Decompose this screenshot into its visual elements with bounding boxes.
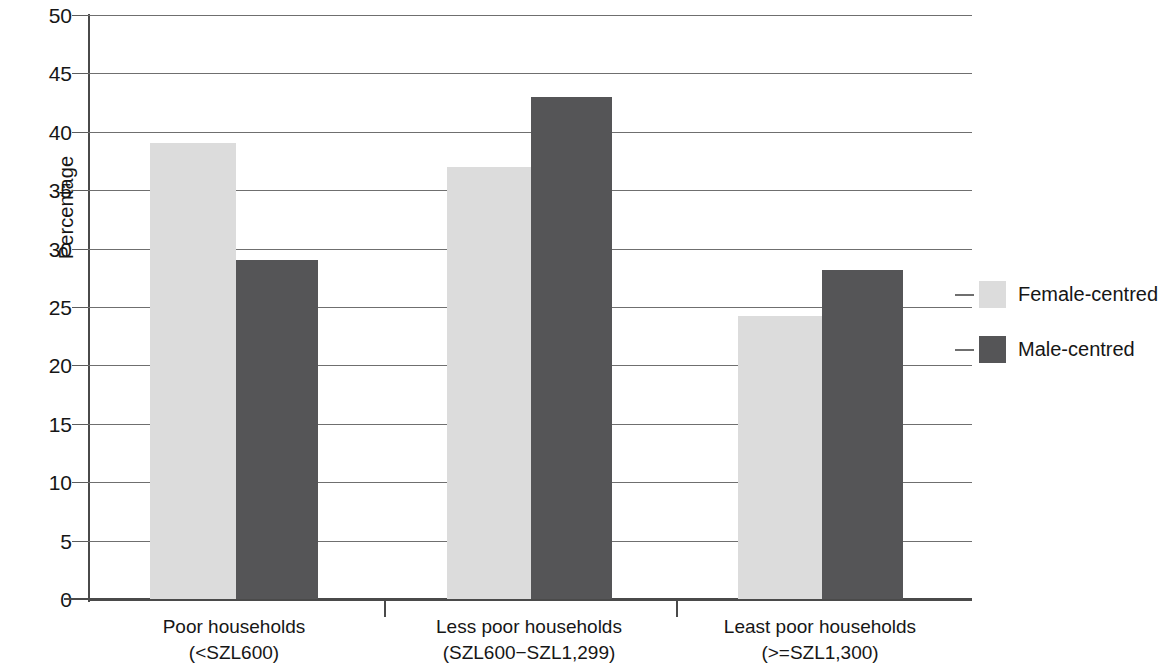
category-label-line2: (SZL600−SZL1,299) (379, 640, 679, 666)
y-axis-tickmark (72, 132, 88, 133)
category-label: Poor households(<SZL600) (84, 614, 384, 666)
category-label-line1: Least poor households (724, 616, 916, 637)
legend-label: Female-centred (1018, 283, 1158, 306)
category-label: Least poor households(>=SZL1,300) (670, 614, 970, 666)
legend-item[interactable]: Female-centred (955, 281, 1158, 308)
legend-item[interactable]: Male-centred (955, 336, 1135, 363)
y-axis-tickmark (72, 424, 88, 425)
bar (531, 97, 612, 599)
bar-chart: Percentage 50454035302520151050 Poor hou… (0, 0, 1171, 671)
category-label-line2: (>=SZL1,300) (670, 640, 970, 666)
legend-label: Male-centred (1018, 338, 1135, 361)
y-axis-tick-label: 25 (16, 297, 72, 318)
y-axis-tick-label: 45 (16, 63, 72, 84)
y-axis-tick-label: 5 (16, 530, 72, 551)
bar (822, 270, 903, 599)
y-axis-tick-label: 30 (16, 238, 72, 259)
category-label-line1: Poor households (163, 616, 306, 637)
legend-dash-icon (955, 294, 974, 296)
y-axis-tick-label: 10 (16, 472, 72, 493)
bar (738, 316, 822, 599)
y-axis-tick-labels: 50454035302520151050 (0, 0, 72, 671)
y-axis-tickmark (72, 249, 88, 250)
y-axis-tickmark (72, 307, 88, 308)
gridline (88, 15, 972, 16)
y-axis-tickmark (72, 365, 88, 366)
y-axis-tickmark (72, 73, 88, 74)
y-axis-tick-label: 50 (16, 5, 72, 26)
category-label-line1: Less poor households (436, 616, 622, 637)
bar (447, 167, 531, 599)
category-label: Less poor households(SZL600−SZL1,299) (379, 614, 679, 666)
y-axis-tick-label: 40 (16, 121, 72, 142)
axis-baseline (88, 599, 972, 601)
y-axis-tickmark (72, 15, 88, 16)
gridline (88, 132, 972, 133)
category-label-line2: (<SZL600) (84, 640, 384, 666)
y-axis-tick-label: 15 (16, 413, 72, 434)
legend-dash-icon (955, 349, 974, 351)
y-axis-tickmark (72, 541, 88, 542)
y-axis-tick-label: 35 (16, 180, 72, 201)
y-axis-tickmark (72, 190, 88, 191)
bar (236, 260, 318, 599)
gridline (88, 73, 972, 74)
y-axis-tick-label: 20 (16, 355, 72, 376)
legend-swatch (979, 336, 1006, 363)
bar (150, 143, 236, 599)
plot-area (88, 15, 972, 599)
legend-swatch (979, 281, 1006, 308)
y-axis-tickmark (72, 482, 88, 483)
